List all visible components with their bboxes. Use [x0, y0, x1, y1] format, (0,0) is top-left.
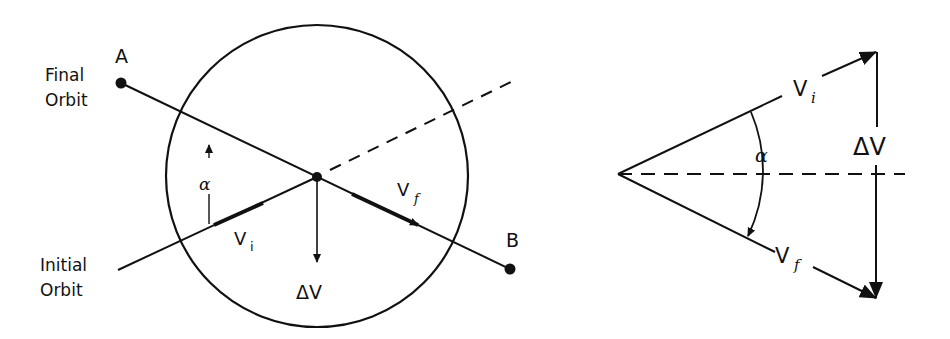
- point-b-dot: [505, 264, 516, 275]
- orbit-plane-change-diagram: A B Final Orbit Initial Orbit α V i V f …: [0, 0, 950, 339]
- label-alpha-right: α: [755, 144, 768, 166]
- label-v-f-left: V: [397, 179, 410, 200]
- label-v-i-left-sub: i: [250, 239, 254, 254]
- label-final-orbit-1: Final: [45, 65, 84, 85]
- left-labels: A B Final Orbit Initial Orbit α V i V f …: [40, 45, 519, 303]
- v-f-vector-right: [618, 174, 775, 252]
- label-initial-orbit-2: Orbit: [40, 280, 83, 300]
- label-final-orbit-2: Orbit: [45, 90, 88, 110]
- v-i-vector: [214, 203, 263, 225]
- label-initial-orbit-1: Initial: [40, 255, 87, 275]
- label-v-i-left: V: [234, 228, 247, 249]
- label-v-f-right-sub: f: [793, 256, 802, 274]
- label-delta-v-left: ΔV: [296, 281, 322, 303]
- label-v-f-left-sub: f: [413, 191, 421, 206]
- velocity-triangle: [618, 52, 905, 298]
- label-v-i-right: V: [793, 77, 808, 101]
- right-labels: V i V f α ΔV: [755, 77, 886, 274]
- point-a-dot: [116, 78, 127, 89]
- label-delta-v-right: ΔV: [853, 133, 886, 161]
- label-point-a: A: [115, 45, 128, 67]
- label-point-b: B: [506, 229, 519, 251]
- v-f-arrowhead-segment: [813, 267, 876, 298]
- initial-orbit-extension-dashed: [330, 80, 515, 170]
- label-alpha-left: α: [199, 174, 211, 194]
- label-v-f-right: V: [775, 244, 790, 268]
- label-v-i-right-sub: i: [811, 89, 816, 107]
- v-i-arrowhead-segment: [822, 52, 876, 76]
